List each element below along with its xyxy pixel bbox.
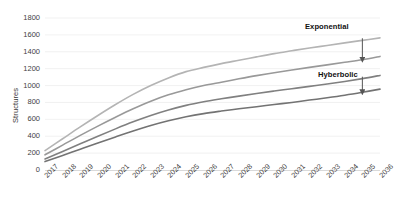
data-series-layer xyxy=(45,38,380,162)
annotation-label-hyberbolic: Hyberbolic xyxy=(318,70,358,79)
annotation-label-exponential: Exponential xyxy=(305,22,349,31)
gridlines xyxy=(45,18,380,153)
line-series-1-top xyxy=(45,38,380,151)
